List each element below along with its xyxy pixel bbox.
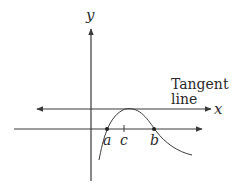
point-a-label: a xyxy=(103,132,111,148)
point-b-dot xyxy=(152,127,156,131)
x-axis-label: x xyxy=(214,100,223,118)
point-c-label: c xyxy=(120,132,128,148)
point-b-label: b xyxy=(150,132,159,148)
tangent-label-line1: Tangent xyxy=(171,76,229,92)
point-a-dot xyxy=(105,127,109,131)
y-axis-label: y xyxy=(85,6,95,24)
function-curve xyxy=(99,109,192,160)
tangent-line-diagram: y x Tangent line a c b xyxy=(0,0,234,190)
tangent-label-line2: line xyxy=(171,91,197,107)
